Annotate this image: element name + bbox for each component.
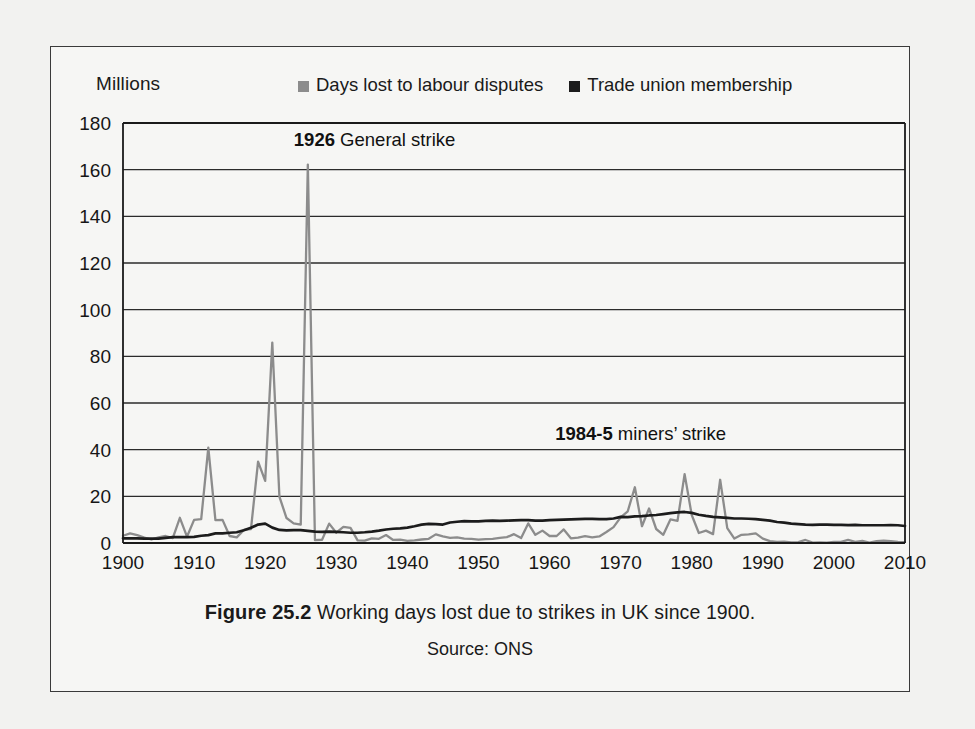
legend-swatch-days-lost (298, 81, 309, 92)
figure-page: Millions Days lost to labour disputes Tr… (0, 0, 975, 729)
legend-swatch-union-membership (569, 81, 580, 92)
legend-label-union-membership: Trade union membership (587, 74, 792, 96)
caption-figure-number: Figure 25.2 (205, 601, 312, 623)
figure-border-box (50, 46, 910, 692)
caption-source: Source: ONS (60, 639, 900, 660)
legend-label-days-lost: Days lost to labour disputes (316, 74, 543, 96)
y-axis-unit-label: Millions (96, 73, 160, 95)
figure-caption: Figure 25.2 Working days lost due to str… (60, 601, 900, 660)
chart-legend: Days lost to labour disputes Trade union… (298, 74, 792, 96)
legend-item-days-lost: Days lost to labour disputes (298, 74, 543, 96)
legend-item-union-membership: Trade union membership (569, 74, 792, 96)
caption-description: Working days lost due to strikes in UK s… (317, 601, 755, 623)
caption-main-line: Figure 25.2 Working days lost due to str… (60, 601, 900, 624)
